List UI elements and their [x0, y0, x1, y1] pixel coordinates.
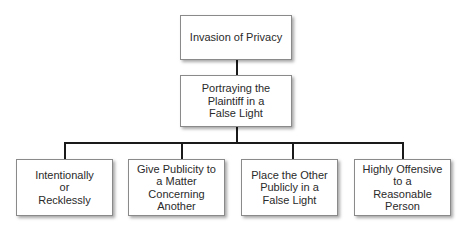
element-node-label: Highly Offensive to a Reasonable Person [357, 163, 448, 213]
element-node-intentionally-or-recklessly: Intentionally or Recklessly [16, 159, 113, 216]
element-node-place-in-false-light: Place the Other Publicly in a False Ligh… [241, 159, 338, 216]
connector-to-element-1 [64, 142, 66, 159]
connector-tort-down [236, 127, 238, 143]
root-node-label: Invasion of Privacy [190, 31, 282, 44]
connector-root-to-tort [236, 60, 238, 75]
tort-node-false-light: Portraying the Plaintiff in a False Ligh… [180, 75, 292, 127]
element-node-label: Give Publicity to a Matter Concerning An… [131, 163, 222, 213]
connector-to-element-4 [402, 142, 404, 159]
connector-horizontal-bar [64, 142, 403, 144]
element-node-label: Place the Other Publicly in a False Ligh… [251, 169, 327, 207]
element-node-label: Intentionally or Recklessly [35, 169, 94, 207]
root-node-invasion-of-privacy: Invasion of Privacy [180, 15, 292, 60]
element-node-give-publicity: Give Publicity to a Matter Concerning An… [128, 159, 225, 216]
element-node-highly-offensive: Highly Offensive to a Reasonable Person [354, 159, 451, 216]
tort-node-label: Portraying the Plaintiff in a False Ligh… [202, 82, 270, 120]
connector-to-element-2 [181, 142, 183, 159]
connector-to-element-3 [292, 142, 294, 159]
